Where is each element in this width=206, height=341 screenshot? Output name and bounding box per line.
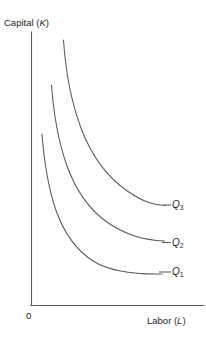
isoquant-chart-canvas xyxy=(0,0,206,341)
axes-group xyxy=(31,32,204,306)
curve-label-q3: Q3 xyxy=(172,199,184,210)
curve-label-q2-subscript: 2 xyxy=(180,242,184,249)
curve-label-q1: Q1 xyxy=(172,266,184,277)
isoquant-curves-group xyxy=(42,40,166,274)
y-axis-label: Capital (K) xyxy=(4,17,49,28)
y-axis-label-prefix: Capital ( xyxy=(4,17,39,28)
curve-label-q1-subscript: 1 xyxy=(180,271,184,278)
y-axis-label-suffix: ) xyxy=(46,17,49,28)
x-axis-label: Labor (L) xyxy=(147,315,186,326)
isoquant-curve-q2 xyxy=(52,85,165,241)
curve-label-q2-name: Q xyxy=(172,237,180,248)
curve-label-q2: Q2 xyxy=(172,237,184,248)
isoquant-figure: Capital (K) Labor (L) 0 Q3 Q2 Q1 xyxy=(0,0,206,341)
curve-label-q3-subscript: 3 xyxy=(180,204,184,211)
label-leader-lines-group xyxy=(159,205,171,272)
isoquant-curve-q1 xyxy=(42,134,162,274)
x-axis-label-prefix: Labor ( xyxy=(147,315,177,326)
isoquant-curve-q3 xyxy=(64,40,166,206)
x-axis-label-suffix: ) xyxy=(182,315,185,326)
curve-label-q3-name: Q xyxy=(172,199,180,210)
curve-label-q1-name: Q xyxy=(172,266,180,277)
origin-label: 0 xyxy=(26,310,31,321)
